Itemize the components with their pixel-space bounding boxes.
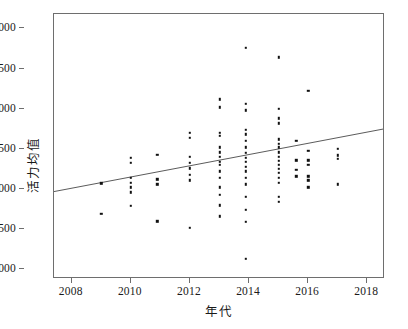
y-tick-label: 5000 — [0, 102, 16, 114]
data-point — [189, 226, 191, 228]
data-point — [130, 186, 132, 188]
y-tick-mark — [19, 108, 24, 109]
data-point — [277, 164, 279, 166]
data-point — [245, 161, 247, 163]
data-point — [218, 98, 220, 100]
data-point — [337, 148, 339, 150]
y-tick-label: 6000 — [0, 21, 16, 33]
y-tick-mark — [19, 188, 24, 189]
data-point — [245, 103, 247, 105]
y-tick-label: 3000 — [0, 262, 16, 274]
data-point — [218, 170, 220, 172]
data-point — [307, 179, 309, 181]
x-tick-mark — [130, 278, 131, 283]
x-tick-label: 2010 — [118, 285, 142, 297]
data-point — [307, 90, 309, 92]
data-point — [277, 181, 279, 183]
x-tick-label: 2016 — [295, 285, 319, 297]
y-tick-label: 4500 — [0, 142, 16, 154]
data-point — [277, 138, 279, 140]
data-point — [245, 221, 247, 223]
x-tick-mark — [189, 278, 190, 283]
x-tick-label: 2014 — [236, 285, 260, 297]
data-point — [277, 160, 279, 162]
data-point — [245, 140, 247, 142]
data-point — [337, 183, 339, 185]
data-point — [245, 47, 247, 49]
plot-area — [54, 14, 383, 277]
data-point — [218, 156, 220, 158]
y-tick-mark — [19, 68, 24, 69]
y-tick-mark — [19, 27, 24, 28]
data-point — [307, 175, 309, 177]
data-point — [100, 182, 102, 184]
data-point — [156, 153, 158, 155]
data-point — [277, 156, 279, 158]
data-point — [307, 149, 309, 151]
data-point — [218, 215, 220, 217]
data-point — [130, 157, 132, 159]
data-point — [189, 179, 191, 181]
data-point — [218, 161, 220, 163]
data-point — [245, 109, 247, 111]
y-tick-label: 5500 — [0, 62, 16, 74]
data-point — [245, 258, 247, 260]
data-point — [337, 157, 339, 159]
data-point — [218, 132, 220, 134]
data-point — [218, 106, 220, 108]
y-axis-title: 活力均值 — [23, 137, 42, 193]
data-point — [245, 170, 247, 172]
data-point — [130, 191, 132, 193]
data-point — [156, 178, 158, 180]
x-tick-mark — [366, 278, 367, 283]
data-point — [307, 164, 309, 166]
data-point — [277, 56, 279, 58]
data-point — [218, 146, 220, 148]
y-tick-mark — [19, 228, 24, 229]
data-point — [100, 213, 102, 215]
data-point — [218, 186, 220, 188]
y-tick-label: 4000 — [0, 182, 16, 194]
data-point — [295, 169, 297, 171]
data-point — [218, 177, 220, 179]
data-point — [245, 183, 247, 185]
x-tick-label: 2012 — [177, 285, 201, 297]
x-tick-mark — [307, 278, 308, 283]
data-point — [189, 156, 191, 158]
x-axis-title: 年代 — [53, 301, 384, 320]
data-point — [245, 177, 247, 179]
data-point — [245, 152, 247, 154]
data-point — [245, 146, 247, 148]
data-point — [245, 209, 247, 211]
data-point — [218, 151, 220, 153]
data-point — [189, 132, 191, 134]
data-point — [295, 175, 297, 177]
data-point — [307, 186, 309, 188]
data-point — [337, 154, 339, 156]
x-tick-label: 2008 — [59, 285, 83, 297]
scatter-chart-figure: 活力均值 3000350040004500500055006000 200820… — [0, 0, 408, 329]
x-tick-mark — [71, 278, 72, 283]
data-point — [277, 143, 279, 145]
data-point — [156, 220, 158, 222]
data-point — [277, 172, 279, 174]
y-tick-mark — [19, 268, 24, 269]
data-point — [189, 167, 191, 169]
x-tick-label: 2018 — [354, 285, 378, 297]
data-point — [277, 177, 279, 179]
data-point — [218, 164, 220, 166]
data-point — [277, 117, 279, 119]
data-point — [277, 168, 279, 170]
data-point — [245, 128, 247, 130]
data-point — [218, 204, 220, 206]
data-point — [189, 136, 191, 138]
data-point — [277, 122, 279, 124]
data-point — [245, 165, 247, 167]
data-point — [277, 201, 279, 203]
data-point — [245, 133, 247, 135]
data-point — [130, 161, 132, 163]
x-tick-mark — [248, 278, 249, 283]
data-point — [156, 183, 158, 185]
data-point — [277, 151, 279, 153]
data-point — [295, 159, 297, 161]
